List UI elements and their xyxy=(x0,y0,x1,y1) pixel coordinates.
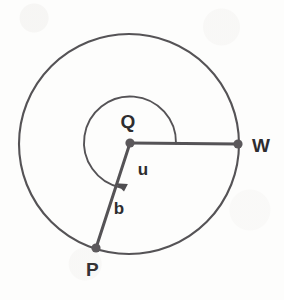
label-w: W xyxy=(252,135,270,156)
label-angle-u: u xyxy=(138,160,149,179)
label-q: Q xyxy=(121,111,136,132)
radius-line-qw xyxy=(130,143,238,144)
label-p: P xyxy=(86,259,99,280)
radius-line-qp xyxy=(96,143,130,248)
vertex-dot-q xyxy=(125,138,134,147)
diagram-canvas: Q W P u b xyxy=(0,0,284,300)
circle-diagram-svg: Q W P u b xyxy=(0,0,284,300)
vertex-dot-p xyxy=(91,243,100,252)
label-radius-b: b xyxy=(114,199,125,218)
vertex-dot-w xyxy=(233,139,242,148)
